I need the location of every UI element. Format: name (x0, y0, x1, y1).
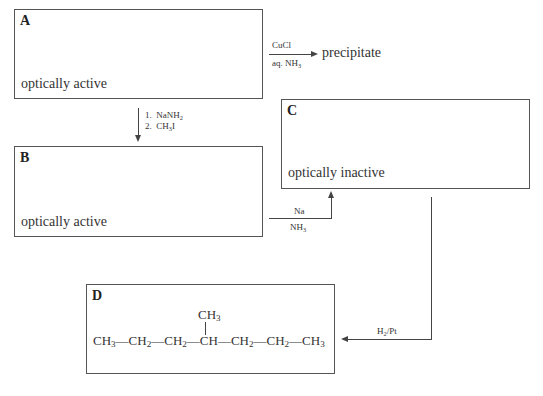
box-c-label: C (287, 103, 297, 119)
precipitate-label: precipitate (322, 45, 381, 61)
box-c: C optically inactive (281, 99, 530, 189)
box-a-description: optically active (21, 76, 107, 92)
arrow-a-b-shaft (138, 108, 139, 137)
arrow-left-icon (341, 336, 348, 342)
arrow-b-c-vertical (331, 197, 332, 219)
box-c-description: optically inactive (288, 165, 385, 181)
reagent-aq-nh3: aq. NH3 (272, 58, 301, 68)
arrow-down-icon (135, 135, 141, 142)
structure-d-chain: CH3—CH2—CH2—CH—CH2—CH2—CH3 (93, 333, 325, 349)
reagent-nh3: NH3 (290, 222, 306, 232)
arrow-c-d-horizontal (346, 339, 432, 340)
box-d-label: D (92, 288, 102, 304)
reagent-cucl: CuCl (272, 40, 291, 50)
arrow-up-icon (328, 191, 334, 198)
arrow-a-precipitate-shaft (269, 54, 313, 55)
reagent-h2-pt: H2/Pt (377, 326, 397, 336)
arrow-right-icon (311, 51, 318, 57)
reagent-nanh2: 1. NaNH2 (145, 110, 183, 120)
box-b: B optically active (14, 146, 263, 237)
reagent-ch3i: 2. CH3I (145, 121, 175, 131)
reagent-na: Na (294, 206, 305, 216)
arrow-b-c-horizontal (269, 218, 332, 219)
arrow-c-d-vertical (431, 197, 432, 340)
structure-d-branch: CH3 (198, 307, 221, 323)
box-b-description: optically active (21, 214, 107, 230)
box-b-label: B (20, 150, 29, 166)
box-a: A optically active (14, 9, 263, 99)
box-a-label: A (20, 13, 30, 29)
box-d: D CH3 CH3—CH2—CH2—CH—CH2—CH2—CH3 (86, 284, 335, 374)
